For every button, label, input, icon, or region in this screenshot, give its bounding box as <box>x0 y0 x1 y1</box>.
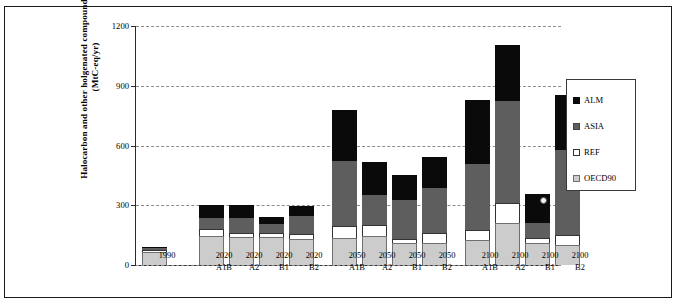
y-tick-900 <box>131 86 136 87</box>
segment-asia <box>422 188 447 233</box>
x-tick-label-2050-b2: 2050B2 <box>423 250 471 273</box>
bar-2100-a1b[interactable] <box>465 100 490 265</box>
segment-ref <box>495 203 520 223</box>
legend-item-label: ALM <box>584 95 603 105</box>
x-tick-label-2100-b2: 2100B2 <box>556 250 604 273</box>
x-tick-label-1990: 1990 <box>143 250 191 262</box>
segment-asia <box>229 218 254 233</box>
x-tick-label-line: B2 <box>423 262 471 274</box>
legend-item-label: ASIA <box>584 121 604 131</box>
segment-alm <box>422 157 447 188</box>
segment-ref <box>199 229 224 236</box>
segment-ref <box>422 233 447 243</box>
segment-asia <box>525 223 550 238</box>
y-tick-1200 <box>131 26 136 27</box>
plot-area: 03006009001200 <box>136 26 561 265</box>
segment-ref <box>332 226 357 238</box>
segment-ref <box>362 225 387 236</box>
x-tick-label-2020-b2: 2020B2 <box>290 250 338 273</box>
y-tick-label-0: 0 <box>125 260 129 270</box>
legend-item-ref[interactable]: REF <box>573 139 635 165</box>
y-tick-label-300: 300 <box>116 200 129 210</box>
segment-asia <box>465 164 490 230</box>
alm-swatch <box>573 97 580 104</box>
segment-asia <box>332 161 357 226</box>
y-tick-label-600: 600 <box>116 141 129 151</box>
legend-item-label: REF <box>584 147 600 157</box>
segment-ref <box>465 230 490 240</box>
oecd90-swatch <box>573 175 580 182</box>
segment-asia <box>289 216 314 234</box>
segment-alm <box>199 205 224 218</box>
segment-asia <box>362 195 387 225</box>
y-tick-label-1200: 1200 <box>112 21 129 31</box>
legend-item-label: OECD90 <box>584 173 616 183</box>
y-tick-label-900: 900 <box>116 81 129 91</box>
legend-item-asia[interactable]: ASIA <box>573 113 635 139</box>
segment-asia <box>199 218 224 229</box>
ref-swatch <box>573 149 580 156</box>
segment-alm <box>259 217 284 224</box>
gridline-1200 <box>136 26 561 27</box>
segment-alm <box>495 45 520 101</box>
y-tick-300 <box>131 205 136 206</box>
segment-alm <box>392 175 417 200</box>
legend-item-oecd90[interactable]: OECD90 <box>573 165 635 191</box>
x-tick-label-line: 2050 <box>423 250 471 262</box>
x-tick-label-line: 2020 <box>290 250 338 262</box>
segment-alm <box>332 110 357 162</box>
segment-alm <box>229 205 254 218</box>
x-tick-label-line: 1990 <box>143 250 191 262</box>
y-tick-0 <box>131 265 136 266</box>
segment-ref <box>555 235 580 245</box>
y-tick-600 <box>131 146 136 147</box>
legend-item-alm[interactable]: ALM <box>573 87 635 113</box>
x-tick-label-line: 2100 <box>556 250 604 262</box>
segment-asia <box>495 101 520 204</box>
bar-2050-b2[interactable] <box>422 157 447 265</box>
bar-2100-a2[interactable] <box>495 45 520 265</box>
y-axis-title: Halocarbon and other holgenated compound… <box>68 0 112 182</box>
segment-alm <box>289 206 314 216</box>
x-tick-label-line: B2 <box>556 262 604 274</box>
x-tick-label-line: B2 <box>290 262 338 274</box>
figure-frame: Halocarbon and other holgenated compound… <box>4 6 672 298</box>
segment-alm <box>362 162 387 195</box>
legend: ALMASIAREFOECD90 <box>566 79 636 191</box>
segment-asia <box>259 224 284 233</box>
asia-swatch <box>573 123 580 130</box>
bar-2050-a1b[interactable] <box>332 110 357 265</box>
segment-asia <box>392 200 417 239</box>
segment-alm <box>465 100 490 165</box>
